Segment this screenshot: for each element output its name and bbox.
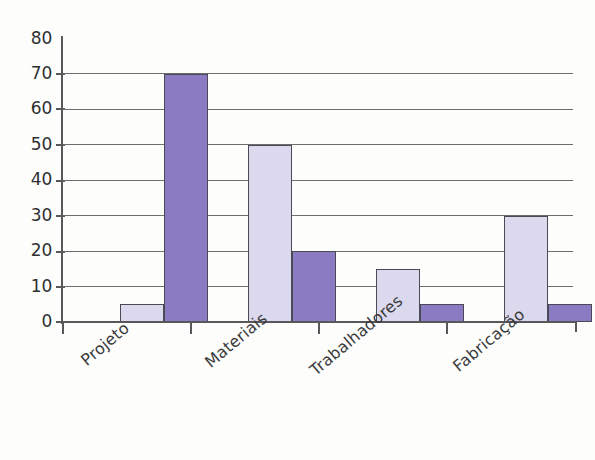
bar-trabalhadores-series-2 [420, 304, 464, 322]
y-axis-tick-labels: 80 70 60 50 40 30 20 10 0 [0, 0, 52, 460]
y-tick-label-60: 60 [2, 100, 52, 117]
y-tick-label-30: 30 [2, 207, 52, 224]
bars-layer [63, 38, 573, 322]
bar-chart: 80 70 60 50 40 30 20 10 0 [0, 0, 595, 460]
x-tick-label-projeto: Projeto [77, 318, 133, 369]
x-tick-mark-3 [446, 322, 448, 334]
bar-materiais-series-2 [292, 251, 336, 322]
y-tick-label-50: 50 [2, 136, 52, 153]
y-tick-label-10: 10 [2, 278, 52, 295]
y-axis-line [61, 36, 63, 324]
bar-projeto-series-1 [120, 304, 164, 322]
x-tick-mark-0 [62, 322, 64, 334]
y-tick-label-40: 40 [2, 171, 52, 188]
x-axis-end-tick [575, 321, 577, 332]
x-tick-mark-2 [318, 322, 320, 334]
x-tick-mark-1 [190, 322, 192, 334]
bar-fabricacao-series-1 [504, 216, 548, 323]
bar-materiais-series-1 [248, 145, 292, 323]
bar-fabricacao-series-2 [548, 304, 592, 322]
y-tick-label-80: 80 [2, 30, 52, 47]
y-tick-label-0: 0 [2, 313, 52, 330]
bar-projeto-series-2 [164, 74, 208, 323]
y-tick-label-20: 20 [2, 242, 52, 259]
y-tick-label-70: 70 [2, 65, 52, 82]
